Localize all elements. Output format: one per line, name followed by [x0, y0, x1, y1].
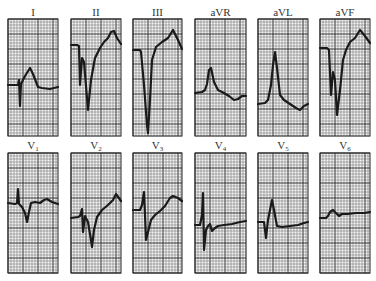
lead-panel-iii: III	[133, 6, 182, 136]
ecg-grid-paper	[71, 19, 121, 136]
ecg-grid-paper	[195, 19, 246, 136]
lead-label: V5	[277, 139, 289, 153]
lead-label: V6	[339, 139, 351, 153]
ecg-12-lead-figure: IIIIIIaVRaVLaVFV1V2V3V4V5V6	[0, 0, 376, 281]
ecg-grid-paper	[320, 19, 370, 136]
lead-label: I	[31, 6, 35, 18]
ecg-grid-paper	[8, 19, 58, 136]
lead-panel-avf: aVF	[320, 6, 370, 136]
lead-label-subscript: 5	[285, 145, 289, 153]
lead-label: II	[92, 6, 100, 18]
lead-label: aVR	[210, 6, 231, 18]
ecg-grid-paper	[133, 19, 182, 136]
lead-label: aVF	[336, 6, 355, 18]
lead-label-subscript: 6	[347, 145, 351, 153]
lead-label: V4	[215, 139, 227, 153]
lead-label: aVL	[273, 6, 293, 18]
lead-panel-avl: aVL	[258, 6, 308, 136]
lead-panel-v3: V3	[133, 139, 182, 273]
lead-panel-v2: V2	[71, 139, 121, 273]
lead-label-subscript: 3	[160, 145, 164, 153]
lead-panel-v6: V6	[320, 139, 370, 273]
lead-panel-v5: V5	[258, 139, 308, 273]
lead-label: V1	[27, 139, 39, 153]
lead-label-subscript: 1	[35, 145, 39, 153]
lead-label: III	[152, 6, 163, 18]
ecg-grid-lines	[258, 153, 308, 273]
lead-label-subscript: 4	[223, 145, 227, 153]
lead-panel-avr: aVR	[195, 6, 246, 136]
ecg-grid-lines	[8, 153, 58, 273]
ecg-grid-lines	[71, 153, 121, 273]
lead-panel-v1: V1	[8, 139, 58, 273]
lead-label: V2	[90, 139, 102, 153]
lead-panel-i: I	[8, 6, 58, 136]
lead-panel-ii: II	[71, 6, 121, 136]
lead-label-subscript: 2	[98, 145, 102, 153]
ecg-grid-paper	[258, 19, 308, 136]
lead-panel-v4: V4	[195, 139, 246, 273]
lead-label: V3	[152, 139, 164, 153]
